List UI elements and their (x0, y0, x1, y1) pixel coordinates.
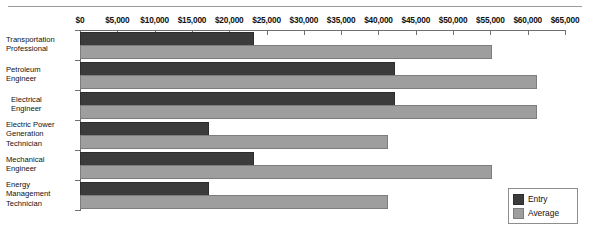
bar-entry (80, 92, 395, 106)
category-label-line: Transportation (6, 35, 76, 44)
y-tick-mark (75, 30, 81, 31)
category-label-line: Petroleum (6, 65, 76, 74)
category-label: EnergyManagementTechnician (6, 180, 76, 208)
bar-average (80, 45, 492, 59)
chart-legend: Entry Average (508, 188, 578, 224)
category-label-line: Mechanical (6, 155, 76, 164)
x-tick-label: $5,000 (105, 15, 129, 25)
bar-average (80, 135, 388, 149)
y-tick-mark (75, 150, 81, 151)
bar-entry (80, 62, 395, 76)
x-tick-label: $30,000 (290, 15, 319, 25)
bar-entry (80, 152, 254, 166)
category-label-line: Professional (6, 44, 76, 53)
category-label: TransportationProfessional (6, 35, 76, 54)
legend-swatch-average-icon (513, 208, 524, 219)
bar-average (80, 165, 492, 179)
x-tick-label: $10,000 (140, 15, 169, 25)
category-label: ElectricalEngineer (11, 95, 81, 114)
bar-chart: $0$5,000$10,000$15,000$20,000$25,000$30,… (0, 0, 590, 238)
x-tick-label: $40,000 (364, 15, 393, 25)
y-tick-mark (75, 60, 81, 61)
category-label-line: Engineer (11, 104, 81, 113)
top-divider-rule (8, 6, 582, 7)
category-label: PetroleumEngineer (6, 65, 76, 84)
category-label-line: Technician (6, 199, 76, 208)
legend-label-entry: Entry (528, 194, 548, 204)
category-label-line: Management (6, 189, 76, 198)
bar-entry (80, 32, 254, 46)
x-tick-label: $25,000 (252, 15, 281, 25)
category-label-line: Technician (6, 139, 76, 148)
legend-item-average: Average (513, 206, 573, 220)
category-label: MechanicalEngineer (6, 155, 76, 174)
x-tick-mark (416, 30, 417, 35)
bar-entry (80, 122, 209, 136)
x-tick-label: $20,000 (215, 15, 244, 25)
x-tick-mark (565, 30, 566, 35)
legend-item-entry: Entry (513, 192, 573, 206)
x-axis-tick-labels: $0$5,000$10,000$15,000$20,000$25,000$30,… (0, 15, 590, 27)
x-tick-mark (378, 30, 379, 35)
x-tick-label: $0 (76, 15, 85, 25)
y-tick-mark (75, 210, 81, 211)
bar-entry (80, 182, 209, 196)
x-tick-label: $60,000 (513, 15, 542, 25)
category-label-line: Engineer (6, 164, 76, 173)
x-tick-label: $45,000 (401, 15, 430, 25)
x-axis-line (80, 30, 565, 31)
x-tick-label: $50,000 (439, 15, 468, 25)
x-tick-mark (490, 30, 491, 35)
y-tick-mark (75, 90, 81, 91)
category-label-line: Engineer (6, 74, 76, 83)
category-label-line: Electric Power (6, 120, 76, 129)
category-label-line: Energy (6, 180, 76, 189)
category-label: Electric PowerGenerationTechnician (6, 120, 76, 148)
bar-average (80, 75, 537, 89)
x-tick-label: $65,000 (551, 15, 580, 25)
x-tick-mark (528, 30, 529, 35)
legend-label-average: Average (528, 208, 559, 218)
category-label-line: Generation (6, 129, 76, 138)
bar-average (80, 105, 537, 119)
x-tick-label: $35,000 (327, 15, 356, 25)
x-tick-mark (304, 30, 305, 35)
x-tick-label: $15,000 (178, 15, 207, 25)
x-tick-mark (453, 30, 454, 35)
category-label-line: Electrical (11, 95, 81, 104)
bar-average (80, 195, 388, 209)
x-tick-mark (267, 30, 268, 35)
x-tick-mark (341, 30, 342, 35)
legend-swatch-entry-icon (513, 194, 524, 205)
x-tick-label: $55,000 (476, 15, 505, 25)
